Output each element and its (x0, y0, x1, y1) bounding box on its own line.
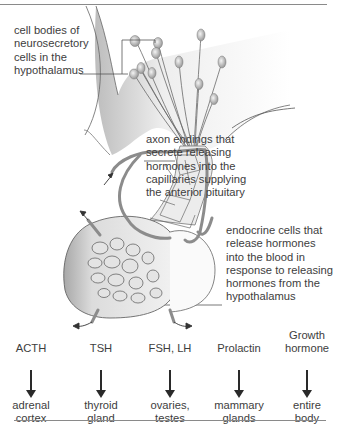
hormone-target: mammary glands (204, 399, 274, 426)
hormone-name: ACTH (0, 342, 66, 355)
arrow-down-icon (100, 370, 102, 392)
hormone-target: ovaries, testes (135, 399, 205, 426)
hormone-target: thyroid gland (66, 399, 136, 426)
hormone-target: entire body (272, 399, 337, 426)
arrow-down-icon (169, 370, 171, 392)
hormone-name: FSH, LH (135, 342, 205, 355)
bottom-rule (14, 420, 326, 421)
arrow-down-icon (306, 370, 308, 392)
arrow-down-icon (30, 370, 32, 392)
hormone-target: adrenal cortex (0, 399, 66, 426)
hormone-targets: ACTH adrenal cortex TSH thyroid gland FS… (0, 330, 337, 420)
hormone-name: Prolactin (204, 342, 274, 355)
arrow-down-icon (238, 370, 240, 392)
label-endocrine-cells: endocrine cells that release hormones in… (226, 224, 333, 304)
label-cell-bodies: cell bodies of neurosecretory cells in t… (14, 24, 89, 77)
hormone-name: Growth hormone (272, 329, 337, 356)
hormone-name: TSH (66, 342, 136, 355)
label-axon-endings: axon endings that secrete releasing horm… (146, 133, 246, 199)
